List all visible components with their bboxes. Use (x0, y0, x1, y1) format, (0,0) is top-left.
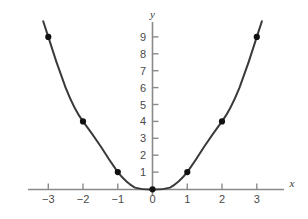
y-tick-label-3: 3 (140, 132, 146, 144)
y-tick-label-4: 4 (140, 115, 146, 127)
y-axis-label: y (149, 8, 155, 20)
y-tick-label-8: 8 (140, 48, 146, 60)
data-point-2-4 (219, 118, 225, 124)
y-tick-label-9: 9 (140, 31, 146, 43)
x-tick-label-1: 1 (184, 193, 190, 205)
graph-figure: −3 −2 −1 0 1 2 3 1 2 3 4 5 6 7 8 9 y x (0, 0, 308, 219)
x-tick-labels: −3 −2 −1 0 1 2 3 (42, 193, 260, 205)
data-point-1-1 (184, 169, 190, 175)
data-point-3-9 (254, 34, 260, 40)
x-tick-label--1: −1 (112, 193, 125, 205)
x-tick-label-3: 3 (254, 193, 260, 205)
parabola-plot: −3 −2 −1 0 1 2 3 1 2 3 4 5 6 7 8 9 y x (0, 0, 308, 219)
data-point--2-4 (80, 118, 86, 124)
y-tick-label-2: 2 (140, 149, 146, 161)
y-tick-label-1: 1 (140, 166, 146, 178)
x-axis-label: x (289, 177, 295, 189)
data-point--3-9 (45, 34, 51, 40)
data-point-0-0 (149, 186, 155, 192)
x-tick-label-0: 0 (149, 193, 155, 205)
y-axis-ticks (153, 37, 159, 172)
x-tick-label-2: 2 (219, 193, 225, 205)
x-tick-label--2: −2 (77, 193, 90, 205)
data-point--1-1 (115, 169, 121, 175)
x-tick-label--3: −3 (42, 193, 55, 205)
y-tick-label-6: 6 (140, 82, 146, 94)
y-tick-labels: 1 2 3 4 5 6 7 8 9 (140, 31, 146, 178)
y-tick-label-7: 7 (140, 65, 146, 77)
y-tick-label-5: 5 (140, 99, 146, 111)
